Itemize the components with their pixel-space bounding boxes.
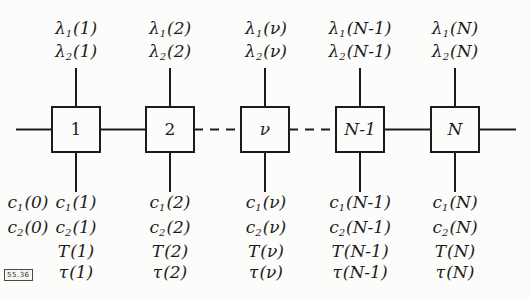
- symbol: c: [8, 217, 18, 237]
- argument: (2): [163, 241, 188, 261]
- block2-label: 2: [146, 121, 194, 138]
- argument: (2): [166, 41, 191, 61]
- symbol: τ: [436, 262, 445, 282]
- symbol: T: [331, 241, 342, 261]
- input-label-lambda2-1: λ2(1): [28, 43, 124, 62]
- input-label-lambda1-n: λ1(N): [407, 20, 503, 39]
- output-label-tau-2: τ(2): [122, 264, 218, 283]
- input-label-lambda2-nu: λ2(ν): [218, 43, 314, 62]
- symbol: T: [152, 241, 163, 261]
- argument: (N-1): [345, 217, 391, 237]
- argument: (2): [162, 262, 187, 282]
- argument: (N): [449, 41, 478, 61]
- input-label-lambda1-nu: λ1(ν): [218, 20, 314, 39]
- subscript: 1: [255, 202, 261, 213]
- symbol: T: [58, 241, 69, 261]
- output-label-T-2: T(2): [122, 243, 218, 262]
- symbol: c: [246, 217, 256, 237]
- argument: (2): [165, 217, 190, 237]
- symbol: τ: [59, 262, 68, 282]
- output-label-c1-2: c1(2): [122, 194, 218, 213]
- subscript: 2: [255, 227, 261, 238]
- output-label-T-1: T(1): [28, 243, 124, 262]
- output-label-tau-nu: τ(ν): [218, 264, 314, 283]
- block1-label: 1: [52, 121, 100, 138]
- symbol: λ: [432, 18, 443, 38]
- input-label-lambda1-nminus1: λ1(N-1): [312, 20, 408, 39]
- figure-number-stamp: 55.36: [4, 269, 33, 281]
- output-label-c2-1: c2(1): [28, 219, 124, 238]
- argument: (1): [71, 192, 96, 212]
- input-label-lambda2-nminus1: λ2(N-1): [312, 43, 408, 62]
- symbol: λ: [329, 18, 340, 38]
- argument: (ν): [259, 241, 284, 261]
- symbol: λ: [432, 41, 443, 61]
- block-diagram-figure: 1 2 ν N-1 N λ1(1) λ2(1) λ1(2) λ2(2) λ1(ν…: [0, 0, 530, 298]
- block-n-label: N: [431, 121, 479, 138]
- output-label-c2-2: c2(2): [122, 219, 218, 238]
- argument: (1): [72, 18, 97, 38]
- argument: (N-1): [346, 18, 392, 38]
- argument: (N-1): [342, 262, 388, 282]
- argument: (N): [445, 262, 474, 282]
- symbol: c: [432, 217, 442, 237]
- argument: (1): [68, 262, 93, 282]
- symbol: λ: [55, 41, 66, 61]
- input-label-lambda2-2: λ2(2): [122, 43, 218, 62]
- symbol: λ: [245, 41, 256, 61]
- output-label-tau-n: τ(N): [407, 264, 503, 283]
- symbol: λ: [245, 18, 256, 38]
- symbol: τ: [153, 262, 162, 282]
- symbol: c: [329, 217, 339, 237]
- input-label-lambda1-2: λ1(2): [122, 20, 218, 39]
- argument: (ν): [258, 262, 283, 282]
- symbol: τ: [332, 262, 341, 282]
- input-label-lambda2-n: λ2(N): [407, 43, 503, 62]
- symbol: τ: [249, 262, 258, 282]
- input-label-lambda1-1: λ1(1): [28, 20, 124, 39]
- output-label-c2-nu: c2(ν): [218, 219, 314, 238]
- argument: (1): [72, 41, 97, 61]
- symbol: c: [150, 192, 160, 212]
- output-label-T-nminus1: T(N-1): [312, 243, 408, 262]
- subscript: 1: [339, 28, 345, 39]
- symbol: T: [248, 241, 259, 261]
- argument: (ν): [262, 18, 287, 38]
- symbol: c: [246, 192, 256, 212]
- subscript: 2: [339, 51, 345, 62]
- argument: (N): [448, 192, 477, 212]
- block-nminus1-label: N-1: [336, 121, 384, 138]
- symbol: c: [56, 192, 66, 212]
- symbol: c: [329, 192, 339, 212]
- symbol: λ: [149, 41, 160, 61]
- symbol: c: [8, 192, 18, 212]
- argument: (ν): [262, 41, 287, 61]
- output-label-c1-n: c1(N): [407, 194, 503, 213]
- symbol: T: [435, 241, 446, 261]
- output-label-T-nu: T(ν): [218, 243, 314, 262]
- symbol: λ: [149, 18, 160, 38]
- output-label-tau-1: τ(1): [28, 264, 124, 283]
- output-label-c1-nu: c1(ν): [218, 194, 314, 213]
- argument: (N): [449, 18, 478, 38]
- argument: (ν): [262, 217, 287, 237]
- argument: (N): [448, 217, 477, 237]
- output-label-c1-1: c1(1): [28, 194, 124, 213]
- output-label-c1-nminus1: c1(N-1): [312, 194, 408, 213]
- output-label-tau-nminus1: τ(N-1): [312, 264, 408, 283]
- argument: (2): [166, 18, 191, 38]
- output-label-c2-nminus1: c2(N-1): [312, 219, 408, 238]
- symbol: λ: [329, 41, 340, 61]
- argument: (N-1): [343, 241, 389, 261]
- argument: (2): [165, 192, 190, 212]
- argument: (N-1): [346, 41, 392, 61]
- argument: (1): [71, 217, 96, 237]
- argument: (N-1): [345, 192, 391, 212]
- symbol: c: [150, 217, 160, 237]
- symbol: λ: [55, 18, 66, 38]
- block-nu-label: ν: [241, 121, 289, 138]
- argument: (N): [446, 241, 475, 261]
- output-label-T-n: T(N): [407, 243, 503, 262]
- symbol: c: [56, 217, 66, 237]
- argument: (1): [69, 241, 94, 261]
